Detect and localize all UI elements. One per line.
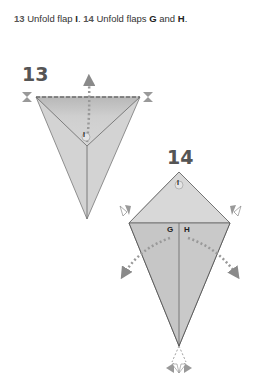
fold-symbol-left-icon [120, 206, 127, 216]
diagram-13 [22, 80, 153, 219]
flap-i-top [129, 172, 230, 223]
origami-diagrams [0, 0, 266, 379]
fold-symbol-right-icon [143, 92, 153, 102]
flap-i-top-text: I [177, 179, 179, 186]
flap-h-text: H [184, 225, 190, 234]
diagram-14 [120, 172, 241, 373]
flap-i-text: I [83, 131, 85, 138]
flap-g-text: G [167, 225, 173, 234]
fold-symbol-left-icon [22, 92, 32, 102]
fold-symbol-right-icon [234, 206, 241, 216]
